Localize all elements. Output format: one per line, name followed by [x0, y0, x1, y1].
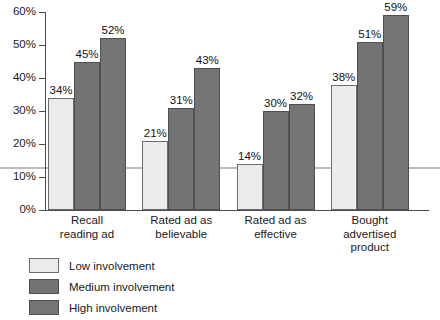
legend-label-high: High involvement: [69, 302, 157, 314]
bar-value-label: 31%: [163, 94, 199, 106]
bar: [168, 108, 194, 210]
bar: [237, 164, 263, 210]
y-axis-tick-label: 60%: [0, 6, 36, 18]
bar-value-label: 14%: [232, 150, 268, 162]
bar: [383, 15, 409, 210]
y-axis-tick-label: 20%: [0, 138, 36, 150]
legend-item-low: Low involvement: [29, 256, 174, 275]
y-axis-tick: [39, 210, 45, 211]
y-axis-tick-label: 10%: [0, 171, 36, 183]
bar-value-label: 45%: [69, 48, 105, 60]
bar-chart: 0%10%20%30%40%50%60% 34%21%14%38%45%31%3…: [0, 0, 440, 320]
y-axis-tick-label: 40%: [0, 72, 36, 84]
legend-label-medium: Medium involvement: [69, 281, 174, 293]
legend-swatch-low-icon: [29, 258, 59, 273]
plot-area: [45, 12, 428, 210]
bar-value-label: 32%: [284, 90, 320, 102]
bar: [100, 38, 126, 210]
bar: [357, 42, 383, 210]
chart-legend: Low involvement Medium involvement High …: [29, 256, 174, 319]
legend-label-low: Low involvement: [69, 260, 155, 272]
bar-value-label: 21%: [137, 127, 173, 139]
bar-value-label: 34%: [43, 84, 79, 96]
bar: [289, 104, 315, 210]
legend-swatch-medium-icon: [29, 279, 59, 294]
bar-value-label: 43%: [189, 54, 225, 66]
category-label: Bought advertised product: [313, 214, 427, 255]
bar-value-label: 51%: [352, 28, 388, 40]
bar-value-label: 38%: [326, 71, 362, 83]
bar: [48, 98, 74, 210]
legend-item-high: High involvement: [29, 298, 174, 317]
bar: [142, 141, 168, 210]
x-axis-line: [45, 210, 429, 211]
bar: [194, 68, 220, 210]
legend-item-medium: Medium involvement: [29, 277, 174, 296]
bar-value-label: 59%: [378, 1, 414, 13]
legend-swatch-high-icon: [29, 300, 59, 315]
y-axis-tick-label: 30%: [0, 105, 36, 117]
bar-value-label: 52%: [95, 24, 131, 36]
bar: [331, 85, 357, 210]
y-axis-tick-label: 50%: [0, 39, 36, 51]
